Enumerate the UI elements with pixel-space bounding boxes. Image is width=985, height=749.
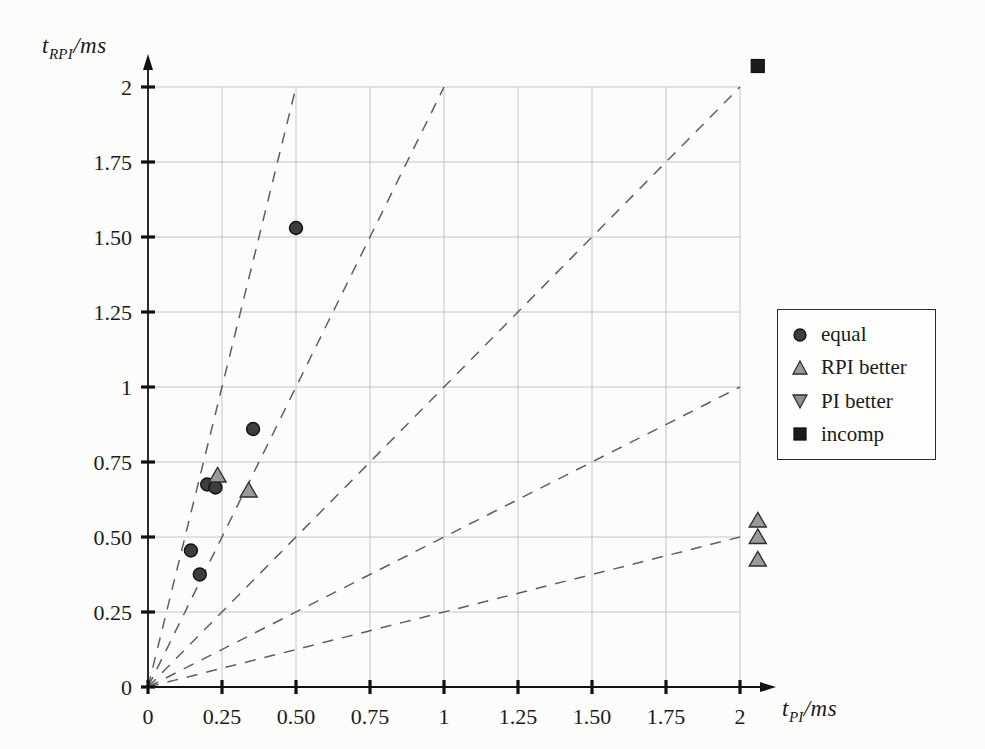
- data-point-equal: [193, 568, 206, 581]
- x-tick-label: 1: [439, 704, 450, 729]
- data-point-equal: [209, 481, 222, 494]
- x-tick-label: 1.75: [647, 704, 686, 729]
- legend-label-rpi-better: RPI better: [821, 355, 907, 380]
- y-tick-label: 0.25: [94, 600, 133, 625]
- y-tick-label: 1.75: [94, 150, 133, 175]
- data-point-rpi-better: [749, 552, 766, 567]
- x-axis-arrowhead: [760, 682, 776, 692]
- y-axis-label-unit: /ms: [73, 33, 106, 58]
- x-tick-label: 0.50: [277, 704, 316, 729]
- axis-ticks: [141, 87, 740, 694]
- data-point-rpi-better: [749, 529, 766, 544]
- legend-item-pi-better: PI better: [791, 388, 935, 414]
- y-axis-label: tRPI/ms: [42, 33, 107, 63]
- y-axis-label-sub: RPI: [49, 46, 73, 62]
- triangle-down-marker-icon: [791, 392, 809, 410]
- x-axis-label: tPI/ms: [782, 696, 837, 726]
- legend-label-pi-better: PI better: [821, 389, 893, 414]
- legend-label-incomp: incomp: [821, 422, 884, 447]
- x-axis-label-unit: /ms: [804, 696, 837, 721]
- x-tick-label: 0.25: [203, 704, 242, 729]
- y-axis-arrowhead: [143, 54, 153, 70]
- data-point-rpi-better: [240, 483, 257, 498]
- y-tick-label: 1.50: [94, 225, 133, 250]
- y-axis-label-var: t: [42, 33, 49, 58]
- legend-item-equal: equal: [791, 322, 935, 348]
- tick-labels: 00.250.500.7511.251.501.75200.250.500.75…: [94, 75, 746, 729]
- legend-item-incomp: incomp: [791, 421, 935, 447]
- data-point-equal: [290, 222, 303, 235]
- x-tick-label: 1.25: [499, 704, 538, 729]
- data-point-rpi-better: [749, 513, 766, 528]
- data-points: [184, 60, 766, 582]
- scatter-plot-figure: 00.250.500.7511.251.501.75200.250.500.75…: [0, 0, 985, 749]
- x-axis-label-var: t: [782, 696, 789, 721]
- y-tick-label: 0.75: [94, 450, 133, 475]
- y-tick-label: 1: [121, 375, 132, 400]
- x-tick-label: 1.50: [573, 704, 612, 729]
- y-tick-label: 0.50: [94, 525, 133, 550]
- x-tick-label: 0.75: [351, 704, 390, 729]
- data-point-incomp: [751, 60, 764, 73]
- x-axis-label-sub: PI: [789, 709, 804, 725]
- triangle-up-marker-icon: [791, 359, 809, 377]
- data-point-rpi-better: [209, 468, 226, 483]
- legend: equal RPI better PI better incomp: [777, 309, 936, 460]
- y-tick-label: 1.25: [94, 300, 133, 325]
- y-tick-label: 0: [121, 675, 132, 700]
- x-tick-label: 0: [143, 704, 154, 729]
- legend-label-equal: equal: [821, 322, 866, 347]
- circle-marker-icon: [791, 326, 809, 344]
- data-point-equal: [247, 423, 260, 436]
- y-tick-label: 2: [121, 75, 132, 100]
- data-point-equal: [184, 544, 197, 557]
- legend-item-rpi-better: RPI better: [791, 355, 935, 381]
- x-tick-label: 2: [735, 704, 746, 729]
- square-marker-icon: [791, 425, 809, 443]
